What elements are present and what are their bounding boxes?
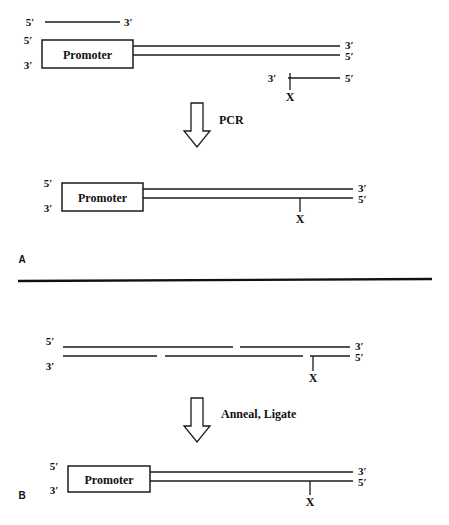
pcr-cloning-diagram: 5′ 3′ Promoter 5′ 3′ 3′ 5′ X 3′ 5′ PCR [0,0,449,525]
pcr-product-modification-label: X [296,212,305,226]
pcr-step-label: PCR [219,113,244,127]
figure-background [0,0,449,525]
forward-primer-five-prime-label: 5′ [26,16,35,28]
reverse-primer-modification-label: X [286,90,295,104]
template-left-five-prime-label: 5′ [24,34,33,46]
ligated-right-five-prime-label: 5′ [358,476,367,488]
anneal-ligate-step-label: Anneal, Ligate [221,407,297,421]
template-left-three-prime-label: 3′ [24,59,33,71]
nicked-duplex-left-three-prime-label: 3′ [46,360,55,372]
panel-label-a: A [18,254,25,265]
nicked-duplex-left-five-prime-label: 5′ [46,335,55,347]
ligated-left-three-prime-label: 3′ [50,484,59,496]
nicked-duplex-modification-label: X [309,371,318,385]
reverse-primer-three-prime-label: 3′ [268,72,277,84]
promoter-box-label: Promoter [63,48,113,62]
pcr-product-promoter-label: Promoter [78,191,128,205]
nicked-duplex-right-five-prime-label: 5′ [355,351,364,363]
panel-label-b: B [18,490,25,501]
pcr-product-left-five-prime-label: 5′ [44,177,53,189]
ligated-left-five-prime-label: 5′ [50,460,59,472]
ligated-modification-label: X [306,495,315,509]
forward-primer-three-prime-label: 3′ [124,16,133,28]
reverse-primer-five-prime-label: 5′ [345,72,354,84]
template-right-five-prime-label: 5′ [345,50,354,62]
pcr-product-left-three-prime-label: 3′ [44,202,53,214]
ligated-promoter-label: Promoter [84,473,134,487]
pcr-product-right-five-prime-label: 5′ [358,193,367,205]
